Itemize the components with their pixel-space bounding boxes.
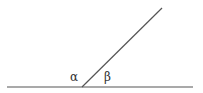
angle-label-beta: β	[104, 70, 111, 84]
angle-diagram: α β	[0, 0, 203, 93]
diagram-svg: α β	[0, 0, 203, 93]
ray-line	[82, 8, 162, 87]
angle-label-alpha: α	[70, 70, 78, 84]
